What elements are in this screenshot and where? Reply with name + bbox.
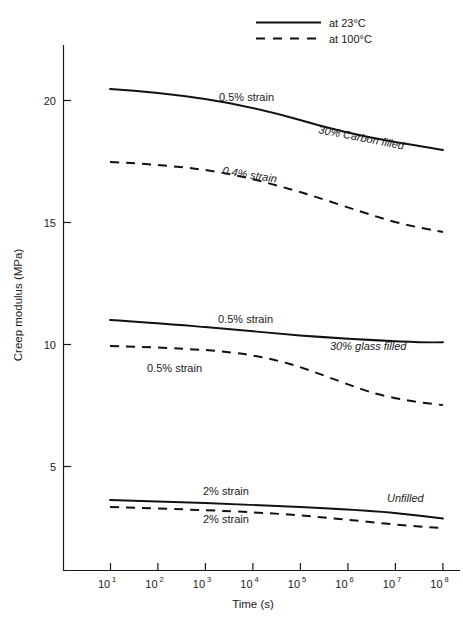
x-tick-label-1: 10 1	[98, 575, 116, 590]
x-tick-exp-8: 8	[444, 575, 448, 584]
x-tick-base-6: 10	[335, 578, 347, 590]
x-tick-base-2: 10	[145, 578, 157, 590]
curve-annotations: 0.5% strain 30% Carbon filled 0.4% strai…	[147, 91, 425, 525]
annotation-unfilled-material: Unfilled	[387, 492, 425, 504]
x-tick-label-8: 10 8	[430, 575, 448, 590]
y-tick-label-20: 20	[44, 95, 56, 107]
x-tick-exp-1: 1	[112, 575, 116, 584]
legend-item-100c: at 100°C	[256, 33, 372, 45]
y-tick-label-10: 10	[44, 339, 56, 351]
chart-legend: at 23°C at 100°C	[256, 17, 372, 45]
annotation-glass-hot-strain: 0.5% strain	[147, 362, 202, 374]
y-axis-tick-labels: 20 15 10 5	[44, 95, 56, 473]
curve-glass-100c	[110, 346, 443, 405]
x-tick-base-3: 10	[193, 578, 205, 590]
annotation-unfilled-hot-strain: 2% strain	[203, 513, 249, 525]
x-tick-base-8: 10	[430, 578, 442, 590]
x-tick-label-4: 10 4	[240, 575, 258, 590]
x-tick-label-5: 10 5	[288, 575, 306, 590]
x-axis-ticks	[111, 563, 443, 571]
y-axis-ticks	[64, 101, 72, 467]
curve-unfilled-100c	[110, 507, 443, 528]
x-tick-label-6: 10 6	[335, 575, 353, 590]
legend-label-100c: at 100°C	[329, 33, 372, 45]
x-tick-base-1: 10	[98, 578, 110, 590]
legend-item-23c: at 23°C	[256, 17, 366, 29]
x-tick-exp-3: 3	[207, 575, 211, 584]
creep-modulus-chart: 20 15 10 5 Creep modulus (MPa) 10 1 1	[0, 0, 463, 617]
annotation-carbon-strain: 0.5% strain	[219, 91, 274, 103]
x-tick-exp-5: 5	[302, 575, 306, 584]
annotation-unfilled-strain: 2% strain	[203, 485, 249, 497]
x-axis-title: Time (s)	[232, 598, 274, 610]
y-axis-title: Creep modulus (MPa)	[12, 249, 24, 362]
annotation-carbon-hot-strain: 0.4% strain	[222, 164, 278, 184]
x-tick-base-4: 10	[240, 578, 252, 590]
y-tick-label-15: 15	[44, 217, 56, 229]
series-curves	[110, 89, 443, 528]
x-tick-exp-7: 7	[397, 575, 401, 584]
x-tick-label-7: 10 7	[383, 575, 401, 590]
curve-glass-23c	[110, 320, 443, 342]
chart-svg: 20 15 10 5 Creep modulus (MPa) 10 1 1	[0, 0, 463, 617]
x-tick-exp-6: 6	[349, 575, 353, 584]
x-tick-base-5: 10	[288, 578, 300, 590]
x-tick-base-7: 10	[383, 578, 395, 590]
annotation-carbon-material: 30% Carbon filled	[318, 123, 406, 152]
annotation-glass-material: 30% glass filled	[330, 340, 407, 352]
y-tick-label-5: 5	[50, 461, 56, 473]
x-tick-exp-2: 2	[159, 575, 163, 584]
x-axis-tick-labels: 10 1 10 2 10 3 10 4 10 5 10 6	[98, 575, 449, 590]
x-tick-label-3: 10 3	[193, 575, 211, 590]
x-tick-label-2: 10 2	[145, 575, 163, 590]
legend-label-23c: at 23°C	[329, 17, 366, 29]
x-tick-exp-4: 4	[254, 575, 258, 584]
annotation-glass-strain: 0.5% strain	[218, 313, 273, 325]
